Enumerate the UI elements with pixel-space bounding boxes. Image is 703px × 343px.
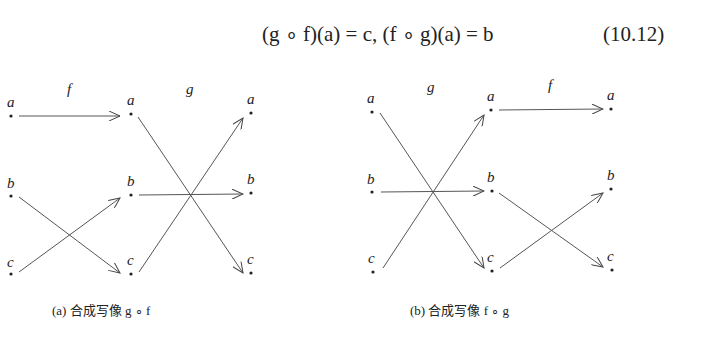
svg-text:b: b	[487, 169, 495, 185]
map-label-f: f	[548, 77, 554, 93]
caption-b: (b) 合成写像 f ∘ g	[410, 300, 509, 319]
svg-text:a: a	[367, 90, 375, 106]
svg-text:b: b	[127, 173, 135, 189]
svg-text:a: a	[127, 92, 135, 108]
arrow-f-a-a	[499, 109, 603, 110]
svg-text:c: c	[368, 250, 375, 266]
map-label-f: f	[67, 81, 73, 97]
svg-text:b: b	[367, 171, 375, 187]
svg-text:c: c	[127, 252, 134, 268]
arrow-g-a-c	[380, 113, 484, 268]
diagram-a-labels: a b c a b c a b c f g	[7, 81, 255, 270]
svg-text:b: b	[607, 167, 615, 183]
svg-text:b: b	[7, 175, 15, 191]
map-label-g: g	[427, 79, 435, 95]
svg-text:c: c	[607, 248, 614, 264]
svg-text:a: a	[247, 91, 255, 107]
svg-text:b: b	[247, 171, 255, 187]
arrow-g-b-b	[381, 191, 484, 192]
diagram-b-labels: a b c a b c a b c g f	[367, 77, 615, 266]
svg-text:c: c	[7, 254, 14, 270]
svg-text:c: c	[247, 251, 254, 267]
map-label-g: g	[186, 81, 194, 97]
diagram-a-nodes	[9, 111, 252, 275]
svg-text:c: c	[487, 249, 494, 265]
arrow-f-c-b	[19, 198, 120, 272]
svg-text:a: a	[487, 88, 495, 104]
svg-text:a: a	[607, 87, 615, 103]
svg-text:a: a	[7, 94, 15, 110]
diagram-b	[380, 109, 603, 268]
composition-diagrams: a b c a b c a b c f g a b c a b c a b c …	[0, 0, 703, 343]
caption-a: (a) 合成写像 g ∘ f	[52, 300, 150, 319]
